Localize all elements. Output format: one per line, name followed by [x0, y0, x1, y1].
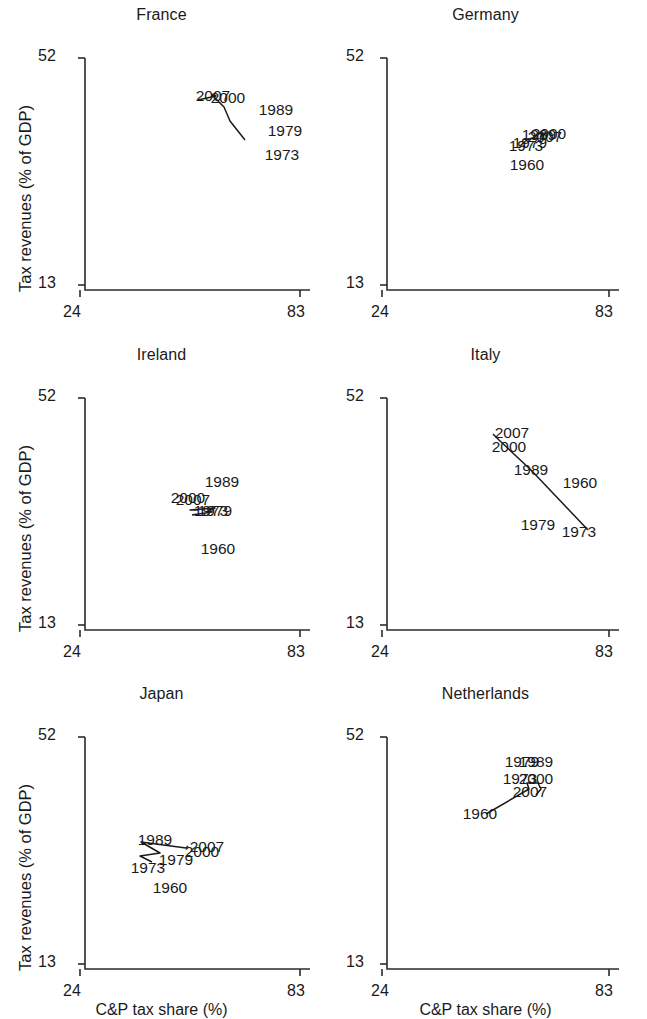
point-label-1979: 1979 [521, 516, 555, 533]
panel-germany: Germany 52 13 24 83 1989 2000 2007 1979 … [324, 0, 647, 340]
plot-area-france: 2007 2000 1989 1979 1973 [0, 0, 323, 340]
point-label-1973: 1973 [562, 523, 596, 540]
point-label-1989: 1989 [519, 753, 553, 770]
point-label-1960: 1960 [201, 540, 236, 557]
point-label-1979: 1979 [268, 122, 302, 139]
point-label-1989: 1989 [514, 461, 548, 478]
point-label-1960: 1960 [463, 805, 498, 822]
point-label-1989: 1989 [259, 101, 293, 118]
plot-area-netherlands: 1979 1989 1973 2000 2007 1960 [324, 679, 647, 1019]
point-label-1989: 1989 [205, 473, 239, 490]
plot-area-italy: 2007 2000 1989 1960 1979 1973 [324, 340, 647, 680]
point-label-1960: 1960 [563, 474, 598, 491]
point-label-2000: 2000 [492, 438, 527, 455]
point-label-1973: 1973 [194, 502, 228, 519]
point-label-2000: 2000 [211, 89, 246, 106]
panel-netherlands: Netherlands 52 13 24 83 C&P tax share (%… [324, 679, 647, 1019]
point-label-1973: 1973 [265, 146, 299, 163]
plot-area-ireland: 1989 2000 2007 1979 1973 1960 [0, 340, 323, 680]
plot-area-japan: 1989 2007 2000 1979 1973 1960 [0, 679, 323, 1019]
panel-france: France Tax revenues (% of GDP) 52 13 24 … [0, 0, 323, 340]
point-label-1989: 1989 [138, 831, 172, 848]
point-label-1973: 1973 [509, 137, 543, 154]
panel-ireland: Ireland Tax revenues (% of GDP) 52 13 24… [0, 340, 323, 680]
panel-italy: Italy 52 13 24 83 2007 2000 1989 1960 19… [324, 340, 647, 680]
panel-japan: Japan Tax revenues (% of GDP) 52 13 24 8… [0, 679, 323, 1019]
point-label-1973: 1973 [131, 859, 165, 876]
plot-area-germany: 1989 2000 2007 1979 1973 1960 [324, 0, 647, 340]
point-label-1960: 1960 [510, 156, 545, 173]
point-label-1960: 1960 [153, 879, 188, 896]
point-label-2007: 2007 [513, 783, 547, 800]
figure-panel-grid: France Tax revenues (% of GDP) 52 13 24 … [0, 0, 647, 1019]
